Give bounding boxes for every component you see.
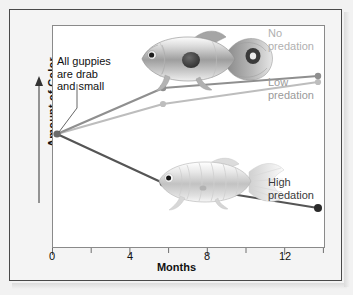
legend-label-no-predation: No predation <box>268 27 314 52</box>
annotation-text: All guppies are drab and small <box>57 55 111 93</box>
page-shadow <box>12 283 347 289</box>
legend-label-low-predation: Low predation <box>268 76 314 101</box>
page-shadow-right <box>344 12 350 287</box>
data-point <box>160 101 166 107</box>
data-point <box>314 204 322 212</box>
x-axis-title: Months <box>0 261 353 273</box>
data-point <box>315 73 321 79</box>
legend-label-high-predation: High predation <box>268 176 314 201</box>
drab-guppy-illustration <box>159 158 284 210</box>
data-point <box>315 79 321 85</box>
figure-container: Amount of Color <box>0 0 353 295</box>
y-axis-arrow-icon <box>33 75 45 205</box>
